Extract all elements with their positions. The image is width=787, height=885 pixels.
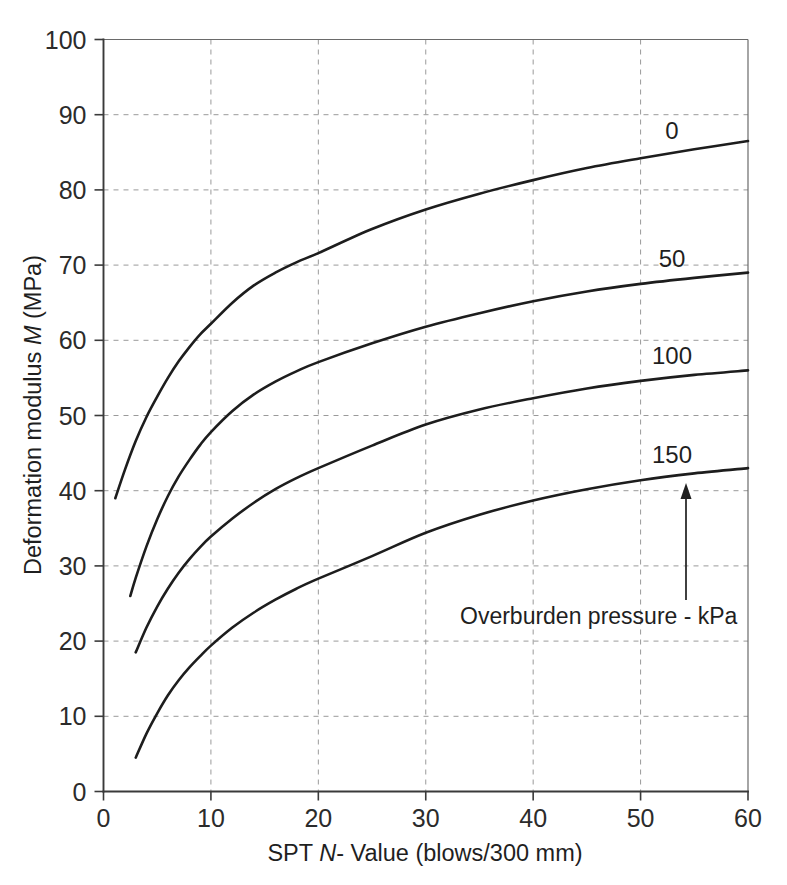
x-tick-label: 10	[197, 804, 225, 832]
y-tick-label: 10	[59, 702, 87, 730]
x-tick-label: 30	[412, 804, 440, 832]
curve-label-50: 50	[659, 245, 686, 272]
y-tick-label: 70	[59, 251, 87, 279]
x-tick-label: 50	[627, 804, 655, 832]
y-tick-label: 50	[59, 402, 87, 430]
chart-figure: 0102030405060 0102030405060708090100 050…	[0, 0, 787, 885]
x-axis-title: SPT N- Value (blows/300 mm)	[267, 840, 582, 866]
y-tick-label: 20	[59, 627, 87, 655]
curve-label-0: 0	[665, 117, 678, 144]
y-tick-label: 30	[59, 552, 87, 580]
x-tick-label: 0	[97, 804, 111, 832]
y-tick-label: 90	[59, 101, 87, 129]
y-tick-label: 40	[59, 477, 87, 505]
y-tick-label: 80	[59, 176, 87, 204]
x-tick-label: 60	[734, 804, 762, 832]
y-axis-title: Deformation modulus M (MPa)	[20, 255, 46, 575]
x-tick-label: 20	[304, 804, 332, 832]
y-tick-label: 100	[45, 26, 87, 54]
overburden-pressure-annotation: Overburden pressure - kPa	[460, 603, 738, 629]
y-tick-label: 0	[73, 778, 87, 806]
curve-label-100: 100	[652, 342, 692, 369]
curve-label-150: 150	[652, 441, 692, 468]
y-tick-label: 60	[59, 326, 87, 354]
chart-svg: 0102030405060 0102030405060708090100 050…	[0, 0, 787, 885]
x-tick-label: 40	[519, 804, 547, 832]
